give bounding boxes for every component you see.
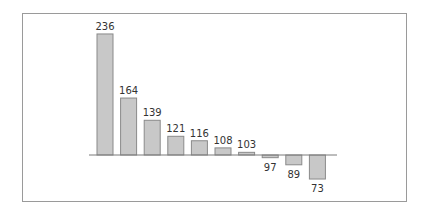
data-label: 103 <box>237 139 256 150</box>
bar-9 <box>286 155 302 165</box>
data-label: 236 <box>95 21 114 32</box>
data-label: 89 <box>287 169 300 180</box>
bar-chart: 236164139121116108103978973 <box>0 0 426 214</box>
data-label: 121 <box>166 123 185 134</box>
bar-10 <box>309 155 325 179</box>
bar-2 <box>121 98 137 155</box>
data-label: 73 <box>311 183 324 194</box>
data-label: 164 <box>119 85 138 96</box>
data-label: 108 <box>213 135 232 146</box>
data-label: 139 <box>143 107 162 118</box>
bar-6 <box>215 148 231 155</box>
bar-5 <box>191 141 207 155</box>
bar-1 <box>97 34 113 155</box>
bar-3 <box>144 120 160 155</box>
data-label: 116 <box>190 128 209 139</box>
bar-4 <box>168 136 184 155</box>
data-label: 97 <box>264 162 277 173</box>
